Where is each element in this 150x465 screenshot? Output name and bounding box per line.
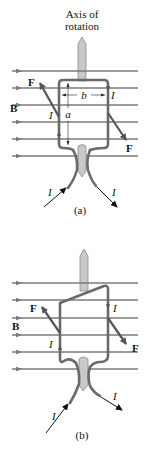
- current-loop-b: [60, 286, 108, 367]
- current-label-in: I: [47, 186, 53, 198]
- current-out-arrow-b: [101, 397, 122, 410]
- current-label-out-b: I: [112, 390, 118, 402]
- dimension-a-label: a: [65, 108, 71, 120]
- axle-bottom-b-icon: [79, 357, 88, 391]
- current-label-top-right: I: [110, 89, 116, 101]
- field-label-b: B: [10, 102, 18, 114]
- current-label-left-b: I: [48, 338, 54, 350]
- force-arrow-right-b: [108, 318, 126, 344]
- caption-a: (a): [74, 204, 87, 217]
- force-arrow-right: [108, 113, 126, 140]
- axle-bottom-icon: [78, 145, 86, 178]
- current-in-arrow-b: [46, 404, 68, 433]
- force-label-left-b: F: [30, 302, 37, 314]
- current-loop-torque-diagram: Axis of rotation: [0, 0, 150, 465]
- magnetic-field-lines-b: [12, 281, 138, 371]
- current-label-right-b: I: [112, 302, 118, 314]
- dimension-b-label: b: [81, 89, 87, 101]
- force-label-left: F: [28, 76, 35, 88]
- axle-top-icon: [78, 37, 86, 81]
- caption-b: (b): [76, 429, 89, 442]
- force-label-right: F: [126, 142, 133, 154]
- field-label-b-b: B: [12, 320, 20, 332]
- axis-label-line1: Axis of: [66, 8, 99, 20]
- axle-top-b-icon: [80, 249, 88, 291]
- current-label-out: I: [111, 186, 117, 198]
- figure-b: F F B I I I I (b): [12, 249, 139, 442]
- force-arrow-left-b: [42, 307, 60, 333]
- axis-label-line2: rotation: [65, 20, 100, 32]
- figure-a: Axis of rotation: [10, 8, 138, 217]
- force-label-right-b: F: [132, 342, 139, 354]
- current-label-left: I: [48, 109, 54, 121]
